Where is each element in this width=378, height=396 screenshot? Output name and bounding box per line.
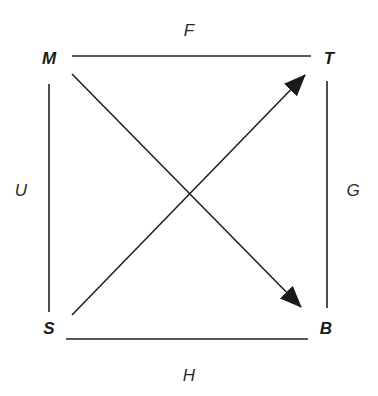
node-label-b: B — [320, 319, 332, 338]
edge-label-h: H — [183, 366, 196, 385]
node-label-s: S — [43, 319, 55, 338]
arrow-m-to-b — [72, 74, 301, 307]
node-label-m: M — [42, 49, 57, 68]
node-label-t: T — [324, 49, 336, 68]
edge-label-f: F — [184, 21, 196, 40]
edge-label-u: U — [15, 181, 28, 200]
graph-diagram: M T S B F U G H — [0, 0, 378, 396]
edge-label-g: G — [346, 181, 359, 200]
arrow-s-to-t — [72, 75, 305, 315]
